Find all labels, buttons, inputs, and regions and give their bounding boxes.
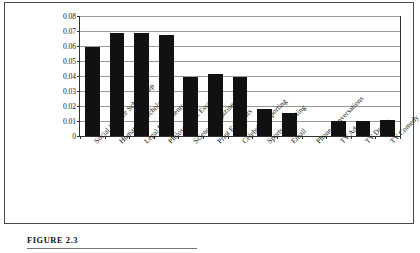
y-tick-label: 0.03 xyxy=(63,87,76,96)
y-tick-label: 0.07 xyxy=(63,27,76,36)
y-tick-mark xyxy=(77,106,80,107)
bar xyxy=(85,47,100,136)
figure-caption: FIGURE 2.3 xyxy=(27,236,78,245)
y-tick-mark xyxy=(77,16,80,17)
y-tick-mark xyxy=(77,46,80,47)
y-tick-mark xyxy=(77,31,80,32)
gridline xyxy=(80,16,400,17)
caption-rule xyxy=(27,248,197,249)
gridline xyxy=(80,31,400,32)
y-tick-label: 0.08 xyxy=(63,12,76,21)
y-tick-mark xyxy=(77,76,80,77)
y-tick-mark xyxy=(77,61,80,62)
y-tick-label: 0.01 xyxy=(63,117,76,126)
y-tick-label: 0.04 xyxy=(63,72,76,81)
y-tick-label: 0.02 xyxy=(63,102,76,111)
y-tick-label: 0.05 xyxy=(63,57,76,66)
y-tick-mark xyxy=(77,121,80,122)
y-tick-label: 0.06 xyxy=(63,42,76,51)
y-tick-mark xyxy=(77,91,80,92)
gridline xyxy=(80,61,400,62)
x-tick-mark xyxy=(80,136,81,139)
gridline xyxy=(80,46,400,47)
y-tick-label: 0 xyxy=(72,132,76,141)
